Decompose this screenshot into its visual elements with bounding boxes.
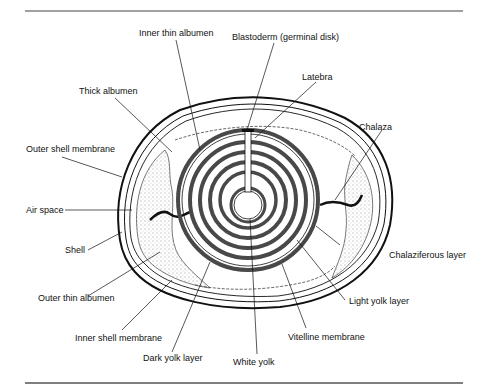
label-blastoderm: Blastoderm (germinal disk) xyxy=(232,32,339,42)
label-thick-albumen: Thick albumen xyxy=(79,86,138,96)
label-inner-shell-membrane: Inner shell membrane xyxy=(75,333,162,343)
label-shell: Shell xyxy=(65,245,85,255)
label-air-space: Air space xyxy=(26,205,64,215)
label-outer-shell-membrane: Outer shell membrane xyxy=(26,144,115,154)
latebra xyxy=(245,130,251,192)
label-vitelline-membrane: Vitelline membrane xyxy=(288,332,365,342)
label-latebra: Latebra xyxy=(302,72,333,82)
label-chalaza: Chalaza xyxy=(359,122,392,132)
label-light-yolk-layer: Light yolk layer xyxy=(349,296,409,306)
egg-diagram xyxy=(0,0,488,392)
label-chalaziferous-layer: Chalaziferous layer xyxy=(389,250,466,260)
label-outer-thin-albumen: Outer thin albumen xyxy=(38,293,115,303)
label-dark-yolk-layer: Dark yolk layer xyxy=(143,353,203,363)
label-white-yolk: White yolk xyxy=(233,357,275,367)
label-inner-thin-albumen: Inner thin albumen xyxy=(139,28,214,38)
